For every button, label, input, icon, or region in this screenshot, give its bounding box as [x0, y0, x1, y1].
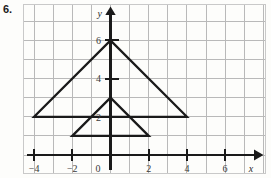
plot-background — [23, 4, 266, 174]
x-tick-label-6: 6 — [223, 163, 228, 174]
y-axis-label: y — [97, 8, 103, 19]
x-tick-label--2: −2 — [67, 163, 78, 174]
coordinate-plane-svg: −4 −2 0 2 4 6 2 4 6 x y — [23, 4, 266, 174]
x-axis-label: x — [248, 163, 254, 174]
worksheet-problem-figure: 6. — [0, 0, 271, 178]
y-tick-label-2: 2 — [96, 112, 101, 123]
x-tick-label-4: 4 — [184, 163, 189, 174]
y-tick-label-4: 4 — [96, 73, 101, 84]
x-tick-label--4: −4 — [29, 163, 40, 174]
problem-number: 6. — [3, 3, 12, 15]
coordinate-plane: −4 −2 0 2 4 6 2 4 6 x y — [23, 4, 266, 174]
origin-label: 0 — [96, 163, 101, 174]
y-tick-label-6: 6 — [96, 35, 101, 46]
x-tick-label-2: 2 — [146, 163, 151, 174]
